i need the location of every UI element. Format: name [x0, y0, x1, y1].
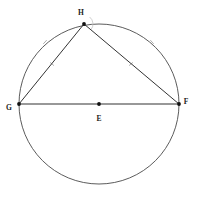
point-f	[177, 102, 181, 106]
label-f: F	[184, 97, 189, 106]
point-h	[82, 22, 86, 26]
figure-background	[0, 0, 198, 200]
label-h: H	[78, 8, 84, 17]
point-e-center	[97, 102, 101, 106]
geometry-figure: H G F E	[0, 0, 198, 200]
label-e: E	[96, 114, 101, 123]
point-g	[17, 102, 21, 106]
label-g: G	[6, 103, 12, 112]
geometry-canvas: H G F E	[0, 0, 198, 200]
